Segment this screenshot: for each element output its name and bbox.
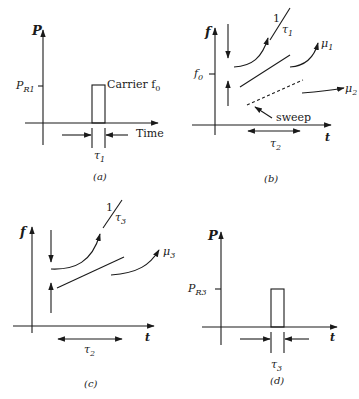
width-label: τ2 [270,137,281,152]
panel-a: P Time PR1 Carrier f0 τ1 (a) [15,23,164,182]
x-axis-label: t [330,331,335,344]
x-axis-label: Time [136,127,164,140]
mu3-label: μ3 [163,245,175,260]
slope-den: τ1 [282,23,293,38]
mu2-label: μ2 [345,82,357,97]
caption: (d) [270,375,284,386]
sweep-label: sweep [276,111,311,124]
width-label: τ2 [84,343,95,358]
x-axis-label: t [325,131,330,144]
caption: (a) [93,171,107,182]
figure-canvas: P Time PR1 Carrier f0 τ1 (a) f t f0 1 τ1… [0,0,359,399]
curved-arrow-tau1 [234,38,268,67]
slope-num: 1 [273,12,280,25]
sweep-line [247,80,303,105]
x-axis-label: t [145,331,150,344]
caption: (c) [84,378,98,389]
chirp-line [57,257,124,288]
pulse-label: Carrier f0 [107,78,160,93]
mu1-label: μ1 [321,37,333,52]
y-axis-label: f [204,24,213,39]
curved-arrow-mu3 [111,250,159,275]
curved-arrow-mu1 [290,43,318,67]
slope-num: 1 [106,201,113,214]
sweep-pointer-arrow [255,107,272,118]
slope-den: τ3 [115,211,126,226]
chirp-line [240,55,290,87]
pulse [92,85,105,123]
width-label: τ1 [94,149,105,164]
width-label: τ3 [271,358,282,373]
panel-b: f t f0 1 τ1 μ1 sweep μ2 τ2 (b) [192,8,357,184]
pulse [271,289,284,327]
level-label: PR3 [187,282,207,297]
curved-arrow-tau3 [51,234,100,269]
y-axis-label: f [19,224,28,239]
y-axis-label: P [31,23,43,38]
arrow-mu2 [302,88,344,93]
level-label: f0 [193,67,203,82]
panel-d: P t PR3 τ3 (d) [187,228,337,386]
y-axis-label: P [207,228,219,243]
caption: (b) [264,173,278,184]
panel-c: f t 1 τ3 μ3 τ2 (c) [13,200,175,389]
level-label: PR1 [15,79,35,94]
